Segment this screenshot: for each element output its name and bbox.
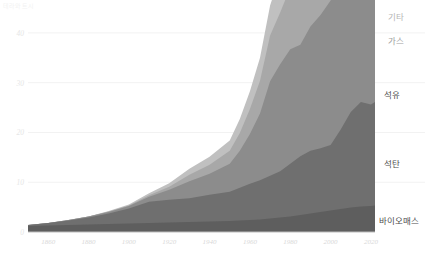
x-axis-tick-label: 2020: [364, 238, 379, 246]
x-axis-tick-label: 1920: [162, 238, 177, 246]
series-label-가스: 가스: [388, 34, 404, 46]
y-axis-tick-label: 30: [16, 79, 25, 88]
x-axis-tick-label: 1980: [283, 238, 298, 246]
series-label-석탄: 석탄: [384, 157, 400, 169]
x-axis-tick-label: 1960: [243, 238, 258, 246]
y-axis-tick-label: 0: [20, 228, 24, 237]
x-axis-tick-label: 2000: [324, 238, 339, 246]
y-axis-tick-label: 40: [17, 29, 25, 38]
x-axis-tick-label: 1860: [41, 238, 56, 246]
x-axis-tick-label: 1880: [82, 238, 97, 246]
stacked-areas-group: [28, 0, 375, 232]
y-axis-tick-label: 20: [17, 128, 25, 137]
x-axis-tick-label: 1940: [203, 238, 218, 246]
y-axis-tick-label: 10: [17, 178, 25, 187]
series-label-기타: 기타: [388, 10, 404, 22]
series-label-바이오매스: 바이오매스: [379, 214, 419, 226]
x-axis-tick-label: 1900: [122, 238, 137, 246]
series-label-석유: 석유: [384, 88, 400, 100]
x-axis-ticks-group: 186018801900192019401960198020002020: [41, 238, 378, 246]
energy-stacked-area-chart: 테라와트시 010203040 186018801900192019401960…: [0, 0, 433, 265]
y-axis-ticks-group: 010203040: [16, 29, 25, 237]
chart-plot-area: 010203040 186018801900192019401960198020…: [0, 0, 433, 265]
